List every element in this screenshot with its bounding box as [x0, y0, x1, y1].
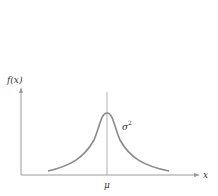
x-axis-label: x: [203, 170, 208, 180]
y-axis-label: f(x): [6, 75, 23, 85]
y-axis-arrow-icon: [19, 87, 23, 93]
density-curve: [48, 113, 169, 171]
x-axis-arrow-icon: [194, 173, 200, 177]
density-diagram: f(x) x μ σ 2: [0, 0, 218, 196]
variance-exponent: 2: [128, 119, 132, 126]
mean-label: μ: [104, 180, 110, 190]
